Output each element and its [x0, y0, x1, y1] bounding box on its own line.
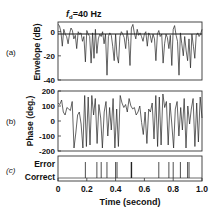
- phase-trace: [58, 94, 202, 148]
- panel-c-decision: (c) Error Correct 00.20.40.60.81.0 Time …: [6, 156, 208, 207]
- panel-a-label: (a): [6, 48, 16, 57]
- y-tick-label: 100: [42, 102, 56, 111]
- y-tick-label: -20: [43, 52, 55, 61]
- x-tick-label: 0.4: [110, 184, 122, 194]
- x-tick-label: 0: [56, 184, 61, 194]
- panel-b-phase: (b) Phase (deg.) 2001000-100-200: [6, 87, 202, 156]
- x-axis-label: Time (second): [100, 197, 161, 207]
- panel-c-label: (c): [6, 166, 16, 175]
- figure: fd=40 Hz (a) Envelope (dB) 0-20-40 (b) P…: [0, 0, 220, 217]
- y-tick-label: -40: [43, 76, 55, 85]
- y-tick-label: -100: [39, 132, 56, 141]
- panel-b-frame: [58, 91, 202, 151]
- panel-a-envelope: (a) Envelope (dB) 0-20-40: [6, 22, 202, 85]
- x-tick-label: 0.2: [81, 184, 93, 194]
- y-tick-label: 0: [51, 28, 56, 37]
- y-tick-label: 0: [51, 117, 56, 126]
- panel-a-frame: [58, 22, 202, 80]
- correct-level-label: Correct: [25, 172, 55, 182]
- y-tick-label: -200: [39, 147, 56, 156]
- error-level-label: Error: [34, 159, 55, 169]
- x-tick-label: 0.8: [167, 184, 179, 194]
- panel-b-label: (b): [6, 117, 16, 126]
- panel-b-ylabel: Phase (deg.): [25, 96, 35, 147]
- y-tick-label: 200: [42, 87, 56, 96]
- x-tick-label: 0.6: [138, 184, 150, 194]
- figure-title: fd=40 Hz: [66, 9, 102, 20]
- x-axis: 00.20.40.60.81.0: [56, 178, 209, 194]
- envelope-trace: [58, 24, 202, 75]
- panel-a-ylabel: Envelope (dB): [32, 23, 42, 80]
- x-tick-label: 1.0: [196, 184, 208, 194]
- error-events: [85, 162, 189, 178]
